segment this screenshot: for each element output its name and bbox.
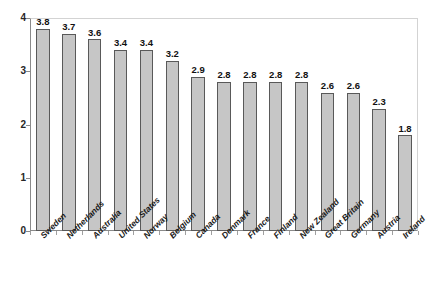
bar-slot: 2.8 — [295, 18, 308, 231]
bar-great-britain — [321, 93, 334, 231]
y-tick-label-3: 3 — [4, 66, 26, 76]
bar-value-label: 3.4 — [107, 38, 134, 48]
bar-value-label: 3.7 — [55, 22, 82, 32]
bar-value-label: 2.8 — [262, 70, 289, 80]
bar-slot: 3.7 — [62, 18, 75, 231]
bar-value-label: 2.6 — [314, 81, 341, 91]
bar-france — [243, 82, 256, 231]
bar-slot: 2.6 — [347, 18, 360, 231]
y-tick-label-2: 2 — [4, 120, 26, 130]
x-tick-mark — [133, 231, 134, 235]
bar-belgium — [166, 61, 179, 231]
bar-value-label: 2.3 — [365, 97, 392, 107]
y-tick-label-1: 1 — [4, 173, 26, 183]
bar-united-states — [114, 50, 127, 231]
y-tick-label-0: 0 — [4, 226, 26, 236]
bar-value-label: 3.8 — [29, 17, 56, 27]
x-tick-mark — [30, 231, 31, 235]
bar-value-label: 2.8 — [288, 70, 315, 80]
bar-chart: 01234 3.83.73.63.43.43.22.92.82.82.82.82… — [0, 0, 432, 306]
bars-layer: 3.83.73.63.43.43.22.92.82.82.82.82.62.62… — [30, 18, 418, 231]
x-tick-mark — [366, 231, 367, 235]
bar-netherlands — [62, 34, 75, 231]
bar-australia — [88, 39, 101, 231]
bar-sweden — [36, 29, 49, 231]
bar-slot: 3.4 — [114, 18, 127, 231]
bar-canada — [191, 77, 204, 231]
bar-slot: 1.8 — [398, 18, 411, 231]
bar-value-label: 2.8 — [210, 70, 237, 80]
x-tick-mark — [211, 231, 212, 235]
bar-value-label: 3.4 — [133, 38, 160, 48]
bar-slot: 3.2 — [166, 18, 179, 231]
x-tick-mark — [263, 231, 264, 235]
x-tick-mark — [289, 231, 290, 235]
bar-slot: 3.8 — [36, 18, 49, 231]
bar-value-label: 2.6 — [340, 81, 367, 91]
bar-value-label: 1.8 — [391, 124, 418, 134]
bar-denmark — [217, 82, 230, 231]
bar-slot: 2.6 — [321, 18, 334, 231]
bar-slot: 2.3 — [372, 18, 385, 231]
bar-austria — [372, 109, 385, 231]
bar-slot: 3.4 — [140, 18, 153, 231]
bar-slot: 2.9 — [191, 18, 204, 231]
y-tick-label-4: 4 — [4, 13, 26, 23]
x-tick-mark — [56, 231, 57, 235]
x-tick-mark — [185, 231, 186, 235]
bar-new-zealand — [295, 82, 308, 231]
bar-ireland — [398, 135, 411, 231]
bar-norway — [140, 50, 153, 231]
bar-slot: 3.6 — [88, 18, 101, 231]
x-tick-mark — [237, 231, 238, 235]
bar-finland — [269, 82, 282, 231]
bar-slot: 2.8 — [243, 18, 256, 231]
x-tick-mark — [392, 231, 393, 235]
x-tick-mark — [418, 231, 419, 235]
bar-value-label: 3.2 — [159, 49, 186, 59]
bar-germany — [347, 93, 360, 231]
x-tick-mark — [159, 231, 160, 235]
bar-value-label: 2.8 — [236, 70, 263, 80]
bar-value-label: 3.6 — [81, 28, 108, 38]
y-tick-mark — [26, 231, 30, 232]
x-tick-mark — [82, 231, 83, 235]
bar-slot: 2.8 — [217, 18, 230, 231]
bar-slot: 2.8 — [269, 18, 282, 231]
bar-value-label: 2.9 — [184, 65, 211, 75]
x-tick-mark — [315, 231, 316, 235]
x-tick-mark — [108, 231, 109, 235]
x-tick-mark — [340, 231, 341, 235]
